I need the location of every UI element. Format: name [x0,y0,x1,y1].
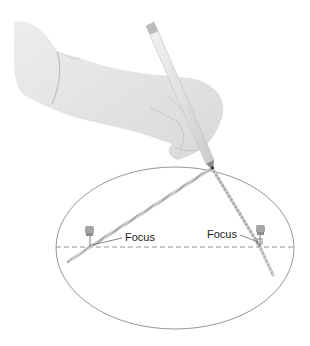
ellipse-diagram: Focus Focus [0,0,310,346]
focus-label-left: Focus [125,232,155,243]
string [68,168,273,275]
diagram-canvas [0,0,310,346]
pin-icon [256,225,265,247]
gloved-hand [14,21,223,160]
focus-label-right: Focus [207,229,237,240]
